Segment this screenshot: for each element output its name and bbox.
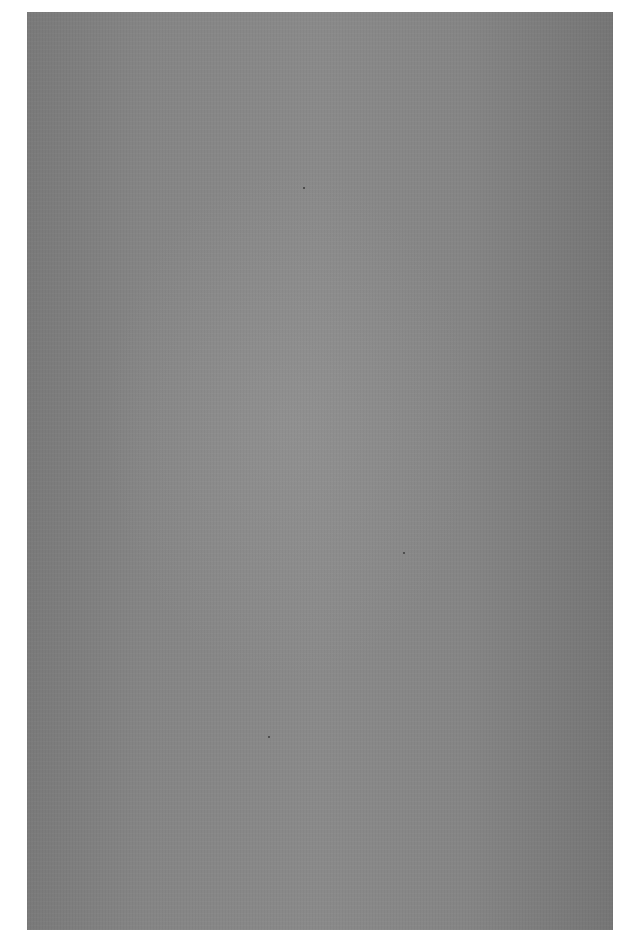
- dust-speck: [303, 187, 305, 189]
- dust-speck: [268, 736, 270, 738]
- dust-speck: [403, 552, 405, 554]
- scanned-blank-page: [27, 12, 613, 930]
